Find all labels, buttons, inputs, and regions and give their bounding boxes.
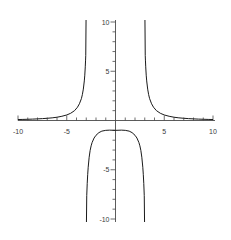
y-tick-label: -5 [103, 166, 109, 173]
x-tick-label: -10 [13, 128, 23, 135]
y-tick-label: -10 [99, 216, 109, 223]
x-tick-label: -5 [64, 128, 70, 135]
plot-container: -10-5510 105-5-10 [0, 0, 231, 240]
y-tick-label: 10 [102, 19, 110, 26]
x-tick-label: 5 [162, 128, 166, 135]
x-tick-label: 10 [209, 128, 217, 135]
y-tick-label: 5 [106, 68, 110, 75]
function-plot: -10-5510 105-5-10 [0, 0, 231, 240]
